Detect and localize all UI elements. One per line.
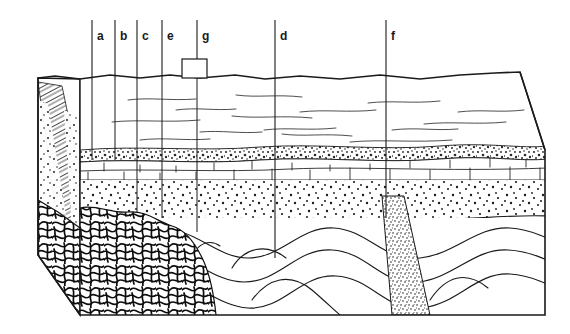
geologic-block-diagram: abcegdf (0, 0, 570, 334)
callout-label-c: c (142, 29, 149, 43)
callout-box-g[interactable] (182, 59, 207, 78)
callout-label-a: a (97, 29, 104, 43)
callout-label-f: f (391, 29, 396, 43)
callout-label-d: d (280, 29, 287, 43)
callout-label-g: g (202, 29, 209, 43)
front-face (78, 70, 548, 320)
unit-sandstone (80, 180, 548, 221)
figure-container: abcegdf (0, 0, 570, 334)
callout-label-b: b (120, 29, 127, 43)
unit-limestone (80, 158, 548, 180)
callout-labels-group: abcegdf (97, 29, 396, 43)
callout-label-e: e (167, 29, 174, 43)
